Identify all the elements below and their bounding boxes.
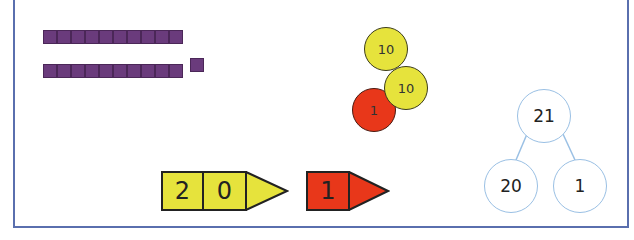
part-node: 20	[484, 159, 538, 213]
part-node: 1	[553, 159, 607, 213]
whole-node: 21	[517, 89, 571, 143]
